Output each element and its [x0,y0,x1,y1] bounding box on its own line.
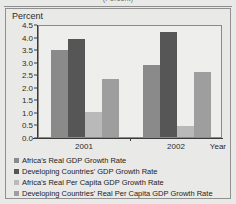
legend-label: Africa's Real GDP Growth Rate [22,155,126,166]
y-tick-mark [34,75,37,76]
y-tick-label: 1.5 [22,96,33,105]
x-tick-label: 2001 [75,142,93,151]
y-tick-label: 2.5 [22,71,33,80]
y-tick-label: 1.0 [22,108,33,117]
bars-layer [39,26,221,137]
x-axis-title: Year [210,142,226,151]
legend-swatch-icon [14,191,19,196]
y-tick-mark [34,25,37,26]
y-tick-mark [34,138,37,139]
x-axis-line [33,138,223,139]
plot-area [38,25,222,138]
y-tick-mark [34,50,37,51]
y-tick-label: 0.5 [22,121,33,130]
legend-swatch-icon [14,169,19,174]
bar [51,50,68,137]
bar [68,39,85,137]
y-tick-mark [34,62,37,63]
y-axis-line [37,25,38,139]
y-tick-label: 2.0 [22,83,33,92]
bar [85,112,102,137]
y-tick-mark [34,87,37,88]
y-tick-mark [34,112,37,113]
legend-item: Developing Countries' GDP Growth Rate [14,166,213,177]
bar [160,32,177,137]
legend-swatch-icon [14,158,19,163]
y-tick-label: 0.0 [22,134,33,143]
legend-item: Africa's Real GDP Growth Rate [14,155,213,166]
y-tick-label: 4.0 [22,33,33,42]
bar [102,79,119,137]
x-tick-label: 2002 [167,142,185,151]
legend-item: Developing Countries' Real Per Capita GD… [14,188,213,199]
y-tick-label: 3.5 [22,46,33,55]
y-tick-label: 3.0 [22,58,33,67]
chart-figure: (Percent) Percent 0.00.51.01.52.02.53.03… [0,0,236,204]
bar [177,126,194,137]
bar [143,65,160,137]
y-tick-mark [34,100,37,101]
chart-legend: Africa's Real GDP Growth RateDeveloping … [14,155,213,199]
bar [194,72,211,137]
legend-label: Africa's Real Per Capita GDP Growth Rate [22,177,164,188]
legend-item: Africa's Real Per Capita GDP Growth Rate [14,177,213,188]
top-divider [4,6,232,7]
legend-label: Developing Countries' GDP Growth Rate [22,166,158,177]
y-tick-label: 4.5 [22,21,33,30]
y-tick-mark [34,37,37,38]
legend-label: Developing Countries' Real Per Capita GD… [22,188,213,199]
legend-swatch-icon [14,180,19,185]
y-axis-title: Percent [12,11,43,21]
y-tick-mark [34,125,37,126]
figure-caption: (Percent) [0,0,236,2]
x-tick-mark [130,138,131,141]
